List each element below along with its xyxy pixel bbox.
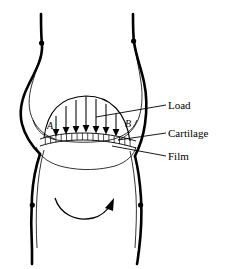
curved-rotation-arrow-icon-shaft (55, 198, 111, 219)
right-tibia-inner-contour (130, 151, 136, 248)
label-point-a: A (47, 121, 53, 131)
dot-marker-icon-top-left (39, 40, 44, 45)
label-cartilage: Cartilage (168, 128, 208, 139)
down-arrow-icon-5 (93, 126, 100, 134)
dot-marker-icon-bot-left (30, 202, 35, 207)
label-load: Load (168, 100, 191, 111)
right-femur-outer-contour (133, 14, 146, 156)
label-point-b: B (125, 119, 131, 129)
curved-rotation-arrow-icon-head (105, 198, 114, 211)
down-arrow-icon-6 (103, 127, 110, 135)
tibial-plateau-outline (36, 147, 136, 170)
label-film: Film (168, 151, 189, 162)
down-arrow-icon-3 (73, 126, 80, 134)
left-femur-outer-contour (21, 14, 42, 154)
dot-marker-icon-top-right (131, 38, 136, 43)
dot-marker-icon-bot-right (138, 202, 143, 207)
knee-joint-figure: Load Cartilage Film A B (0, 0, 227, 269)
left-tibia-outer-contour (31, 154, 40, 264)
down-arrow-icon-4 (83, 125, 90, 133)
cartilage-band-lower-edge (40, 140, 136, 148)
